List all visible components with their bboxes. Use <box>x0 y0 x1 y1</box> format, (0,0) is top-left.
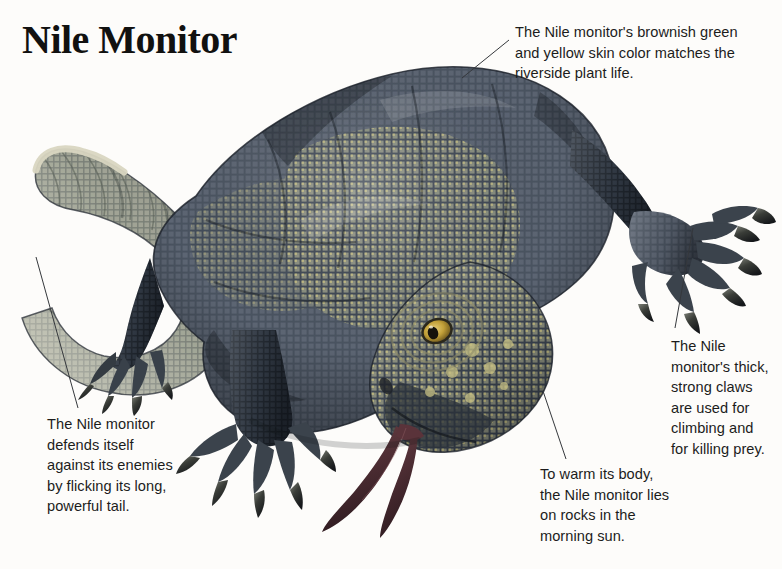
callout-basking: To warm its body, the Nile monitor lies … <box>540 464 720 546</box>
illustration-page: Nile Monitor The Nile monitor's brownish… <box>0 0 782 569</box>
callout-claws: The Nile monitor's thick, strong claws a… <box>671 336 781 459</box>
callout-skin-color: The Nile monitor's brownish green and ye… <box>515 22 777 84</box>
callout-tail-defense: The Nile monitor defends itself against … <box>47 414 217 517</box>
page-title: Nile Monitor <box>22 16 237 63</box>
